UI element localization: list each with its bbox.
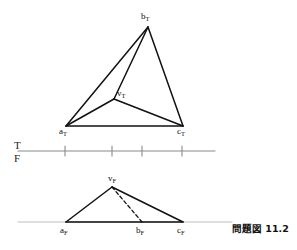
figure-canvas: aT bT cT vT aF bF cF vF T F 問題図 11.2	[0, 0, 297, 250]
descriptive-geometry-drawing	[0, 0, 297, 250]
top-view-edge-v-c	[114, 99, 183, 126]
front-view-edge-a-v	[66, 187, 112, 222]
plane-label-top: T	[14, 140, 21, 151]
plane-label-front: F	[14, 153, 20, 164]
vertex-label-b-top: bT	[141, 12, 149, 21]
vertex-label-v-front: vF	[108, 174, 116, 183]
vertex-label-v-top: vT	[117, 89, 125, 98]
vertex-label-a-top: aT	[59, 127, 67, 136]
front-view-edge-v-b-hidden	[112, 187, 142, 222]
front-view-edge-v-c	[112, 187, 183, 222]
vertex-label-a-front: aF	[60, 226, 68, 235]
top-view-edge-a-b	[66, 27, 148, 126]
vertex-label-b-front: bF	[136, 226, 144, 235]
figure-caption: 問題図 11.2	[232, 224, 289, 234]
top-view-edge-v-a	[66, 99, 114, 126]
top-view-edge-b-c	[148, 27, 183, 126]
vertex-label-c-front: cF	[177, 226, 185, 235]
vertex-label-c-top: cT	[177, 127, 185, 136]
